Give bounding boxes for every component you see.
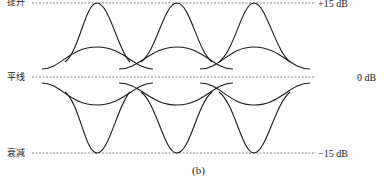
band2-boost-narrow-curve — [141, 3, 212, 62]
cut-db-value: −15 dB — [318, 148, 348, 159]
band1-cut-wide-curve — [42, 83, 153, 105]
flat-db-value: 0 dB — [357, 72, 376, 83]
band3-boost-wide-curve — [200, 47, 310, 69]
band2-boost-wide-curve — [119, 47, 233, 69]
band2-cut-wide-curve — [119, 83, 233, 105]
band3-boost-narrow-curve — [219, 3, 290, 62]
band1-boost-wide-curve — [42, 47, 153, 69]
flat-level-label: 平线 — [7, 72, 25, 82]
boost-level-label: 提升 — [7, 0, 25, 7]
figure-caption: (b) — [192, 164, 205, 176]
cut-level-label: 衰减 — [7, 148, 25, 158]
band3-cut-narrow-curve — [219, 92, 290, 153]
boost-db-value: +15 dB — [318, 0, 348, 9]
band3-cut-wide-curve — [200, 83, 310, 105]
band2-cut-narrow-curve — [141, 92, 212, 153]
band1-cut-narrow-curve — [65, 92, 130, 153]
